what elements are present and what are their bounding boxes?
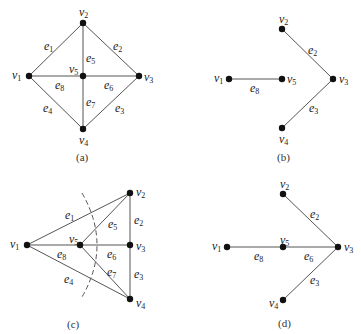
panel-caption-a: (a)	[76, 151, 88, 163]
vertex-v1	[26, 73, 32, 79]
vertex-v1	[24, 242, 30, 248]
edge-label-e2: e2	[310, 208, 319, 222]
edge-e2	[83, 23, 139, 76]
edge-label-e2: e2	[308, 44, 317, 58]
panel-c	[24, 190, 133, 302]
vertex-label-v4: v4	[279, 133, 288, 147]
edge-label-e3: e3	[310, 274, 319, 288]
vertex-label-v5: v5	[287, 73, 296, 87]
panel-caption-d: (d)	[278, 317, 291, 329]
vertex-label-v2: v2	[280, 178, 289, 192]
edge-label-e1: e1	[44, 40, 53, 54]
edge-label-e8: e8	[55, 79, 64, 93]
edge-label-e7: e7	[107, 266, 116, 280]
edge-label-e3: e3	[309, 102, 318, 116]
edge-label-e5: e5	[86, 52, 95, 66]
edge-e5	[80, 193, 130, 245]
vertex-label-v2: v2	[136, 186, 145, 200]
graph-figure: e1e2e3e4e5e6e7e8v1v2v3v4v5(a)e2e3e8v1v2v…	[0, 0, 361, 334]
vertex-v4	[127, 296, 133, 302]
panel-caption-b: (b)	[277, 151, 290, 163]
vertex-label-v1: v1	[12, 69, 21, 83]
vertex-v2	[80, 20, 86, 26]
vertex-label-v1: v1	[214, 72, 223, 86]
graph-canvas	[0, 0, 361, 334]
edge-label-e4: e4	[43, 102, 52, 116]
vertex-v4	[280, 297, 286, 303]
vertex-label-v4: v4	[136, 297, 145, 311]
vertex-v1	[226, 76, 232, 82]
vertex-label-v1: v1	[212, 240, 221, 254]
vertex-label-v3: v3	[136, 240, 145, 254]
panel-caption-c: (c)	[67, 318, 79, 330]
vertex-v5	[279, 76, 285, 82]
edge-label-e8: e8	[250, 82, 259, 96]
edge-label-e6: e6	[304, 250, 313, 264]
edge-label-e4: e4	[64, 273, 73, 287]
vertex-v3	[335, 244, 341, 250]
vertex-v2	[127, 190, 133, 196]
vertex-label-v1: v1	[10, 238, 19, 252]
vertex-label-v3: v3	[344, 241, 353, 255]
vertex-label-v5: v5	[69, 233, 78, 247]
edge-e7	[80, 245, 130, 299]
edge-label-e5: e5	[108, 218, 117, 232]
vertex-label-v2: v2	[279, 13, 288, 27]
edge-label-e2: e2	[134, 214, 143, 228]
edge-label-e3: e3	[115, 102, 124, 116]
vertex-v5	[80, 73, 86, 79]
vertex-label-v4: v4	[79, 134, 88, 148]
vertex-label-v3: v3	[339, 73, 348, 87]
edge-label-e7: e7	[86, 96, 95, 110]
vertex-v4	[80, 126, 86, 132]
vertex-v3	[127, 242, 133, 248]
vertex-label-v3: v3	[144, 71, 153, 85]
vertex-v3	[136, 73, 142, 79]
edge-label-e6: e6	[107, 248, 116, 262]
edge-label-e2: e2	[113, 40, 122, 54]
vertex-v4	[279, 125, 285, 131]
edge-label-e8: e8	[57, 248, 66, 262]
vertex-label-v5: v5	[69, 63, 78, 77]
edge-label-e3: e3	[134, 268, 143, 282]
panel-b	[226, 26, 336, 131]
edge-label-e1: e1	[65, 209, 74, 223]
vertex-v3	[330, 76, 336, 82]
edge-label-e8: e8	[254, 250, 263, 264]
vertex-v1	[224, 244, 230, 250]
vertex-label-v5: v5	[280, 234, 289, 248]
vertex-label-v2: v2	[79, 6, 88, 20]
vertex-label-v4: v4	[269, 297, 278, 311]
edge-label-e6: e6	[104, 79, 113, 93]
